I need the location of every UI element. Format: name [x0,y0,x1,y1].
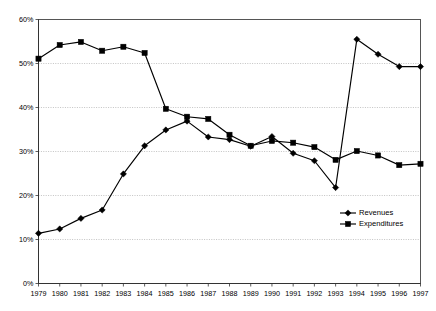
x-axis-tick-label: 1990 [264,289,280,298]
x-axis-tick-label: 1979 [31,289,47,298]
x-axis-tick-label: 1991 [285,289,301,298]
data-point-marker [269,138,274,143]
x-axis-tick-label: 1989 [243,289,259,298]
legend-marker-square [345,221,350,226]
y-axis-tick-label: 40% [19,103,34,112]
data-point-marker [227,132,232,137]
x-axis-tick-label: 1984 [137,289,153,298]
data-point-marker [354,148,359,153]
x-axis-tick-label: 1982 [94,289,110,298]
data-point-marker [184,114,189,119]
x-axis-tick-label: 1983 [115,289,131,298]
data-point-marker [36,56,41,61]
x-axis-tick-label: 1987 [200,289,216,298]
data-point-marker [418,161,423,166]
y-axis-tick-label: 50% [19,59,34,68]
x-axis-tick-label: 1992 [306,289,322,298]
data-point-marker [291,140,296,145]
y-axis-tick-label: 20% [19,191,34,200]
data-point-marker [121,44,126,49]
y-axis-tick-label: 30% [19,147,34,156]
y-axis-tick-label: 10% [19,235,34,244]
x-axis-tick-label: 1981 [73,289,89,298]
legend-label: Expenditures [359,219,404,228]
data-point-marker [248,143,253,148]
x-axis-tick-label: 1985 [158,289,174,298]
data-point-marker [57,42,62,47]
y-axis-tick-label: 0% [23,279,34,288]
data-point-marker [206,116,211,121]
data-point-marker [142,50,147,55]
x-axis-tick-label: 1988 [222,289,238,298]
legend-label: Revenues [359,208,393,217]
data-point-marker [312,145,317,150]
x-axis-tick-label: 1995 [370,289,386,298]
data-point-marker [333,157,338,162]
chart-container: 0%10%20%30%40%50%60% 1979198019811982198… [0,0,436,311]
data-point-marker [163,106,168,111]
x-axis-tick-label: 1993 [328,289,344,298]
data-point-marker [78,39,83,44]
data-point-marker [100,48,105,53]
x-axis-tick-label: 1994 [349,289,365,298]
x-axis-tick-label: 1986 [179,289,195,298]
chart-background [0,0,436,311]
data-point-marker [397,163,402,168]
x-axis-tick-label: 1997 [413,289,429,298]
x-axis-tick-label: 1996 [391,289,407,298]
line-chart: 0%10%20%30%40%50%60% 1979198019811982198… [0,0,436,311]
x-axis-tick-label: 1980 [52,289,68,298]
y-axis-tick-label: 60% [19,15,34,24]
data-point-marker [375,153,380,158]
